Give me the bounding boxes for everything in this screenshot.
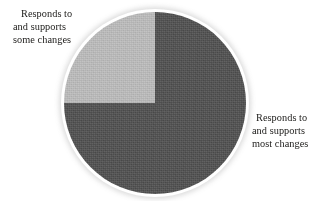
pie-label-some-changes-line-2: and supports	[13, 20, 72, 33]
pie-chart-figure: Responds to and supports some changes Re…	[0, 0, 325, 201]
pie-label-some-changes-line-3: some changes	[13, 33, 72, 46]
pie-label-some-changes: Responds to and supports some changes	[13, 7, 72, 47]
pie-label-some-changes-line-1: Responds to	[13, 7, 72, 20]
pie-label-most-changes-line-2: and supports	[252, 124, 308, 137]
pie-slice-some-changes	[64, 12, 155, 103]
pie-label-most-changes: Responds to and supports most changes	[252, 111, 308, 151]
pie-label-most-changes-line-1: Responds to	[252, 111, 308, 124]
pie-chart-graphic	[64, 12, 246, 194]
pie-label-most-changes-line-3: most changes	[252, 137, 308, 150]
pie-svg	[64, 12, 246, 194]
